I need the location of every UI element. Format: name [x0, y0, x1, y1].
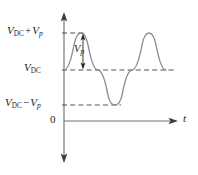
waveform-figure: VDC+Vp VDC VDC−Vp 0 t Vp: [0, 0, 198, 175]
amplitude-label: Vp: [74, 44, 84, 55]
origin-label: 0: [50, 114, 56, 125]
peak-level-operator: +: [24, 24, 32, 36]
voltage-axis: [61, 12, 68, 163]
dc-level-label: VDC: [24, 62, 41, 73]
dc-level-sub: DC: [31, 67, 41, 75]
trough-level-sub: DC: [12, 102, 22, 110]
trough-level-label: VDC−Vp: [5, 97, 41, 108]
peak-level-sub: DC: [14, 30, 24, 38]
dc-level-v: V: [24, 61, 31, 73]
trough-level-operator: −: [22, 96, 30, 108]
peak-level-sub2: p: [39, 29, 43, 38]
trough-level-v2: V: [30, 96, 37, 108]
time-axis: [64, 118, 178, 125]
trough-level-v: V: [5, 96, 12, 108]
peak-level-label: VDC+Vp: [7, 25, 43, 36]
amplitude-sub: p: [80, 47, 84, 56]
time-axis-label: t: [183, 113, 186, 124]
peak-level-v2: V: [32, 24, 39, 36]
trough-level-sub2: p: [37, 101, 41, 110]
peak-level-v: V: [7, 24, 14, 36]
